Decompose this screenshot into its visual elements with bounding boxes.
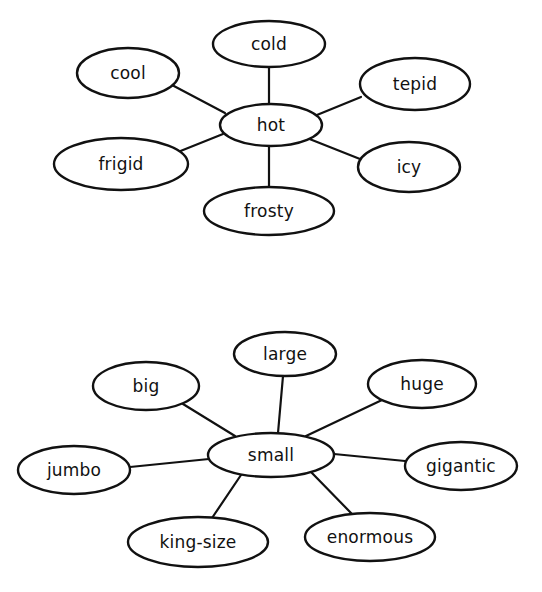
center-word-label: hot [257, 115, 285, 135]
word-label: jumbo [47, 460, 101, 480]
word-label: large [263, 344, 307, 364]
word-label: icy [397, 157, 422, 177]
word-label: huge [400, 374, 444, 394]
ellipse-nodes-layer [0, 0, 542, 592]
word-label: frigid [98, 154, 143, 174]
word-label: cold [251, 34, 287, 54]
center-word-label: small [248, 445, 294, 465]
word-label: cool [110, 63, 146, 83]
word-label: big [133, 376, 160, 396]
word-web-canvas: hotcoldcooltepidfrigidicyfrostysmalllarg… [0, 0, 542, 592]
word-label: gigantic [426, 456, 496, 476]
word-label: frosty [244, 201, 294, 221]
word-label: king-size [159, 532, 236, 552]
word-label: enormous [327, 527, 414, 547]
word-label: tepid [393, 74, 437, 94]
